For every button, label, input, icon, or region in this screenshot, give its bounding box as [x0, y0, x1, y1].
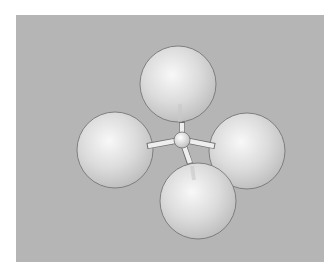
bond-shadow-bottom [192, 166, 194, 180]
central-atom [174, 132, 190, 148]
outer-atom-bottom [160, 163, 236, 239]
outer-atom-left [77, 112, 153, 188]
molecule-diagram [0, 0, 336, 275]
